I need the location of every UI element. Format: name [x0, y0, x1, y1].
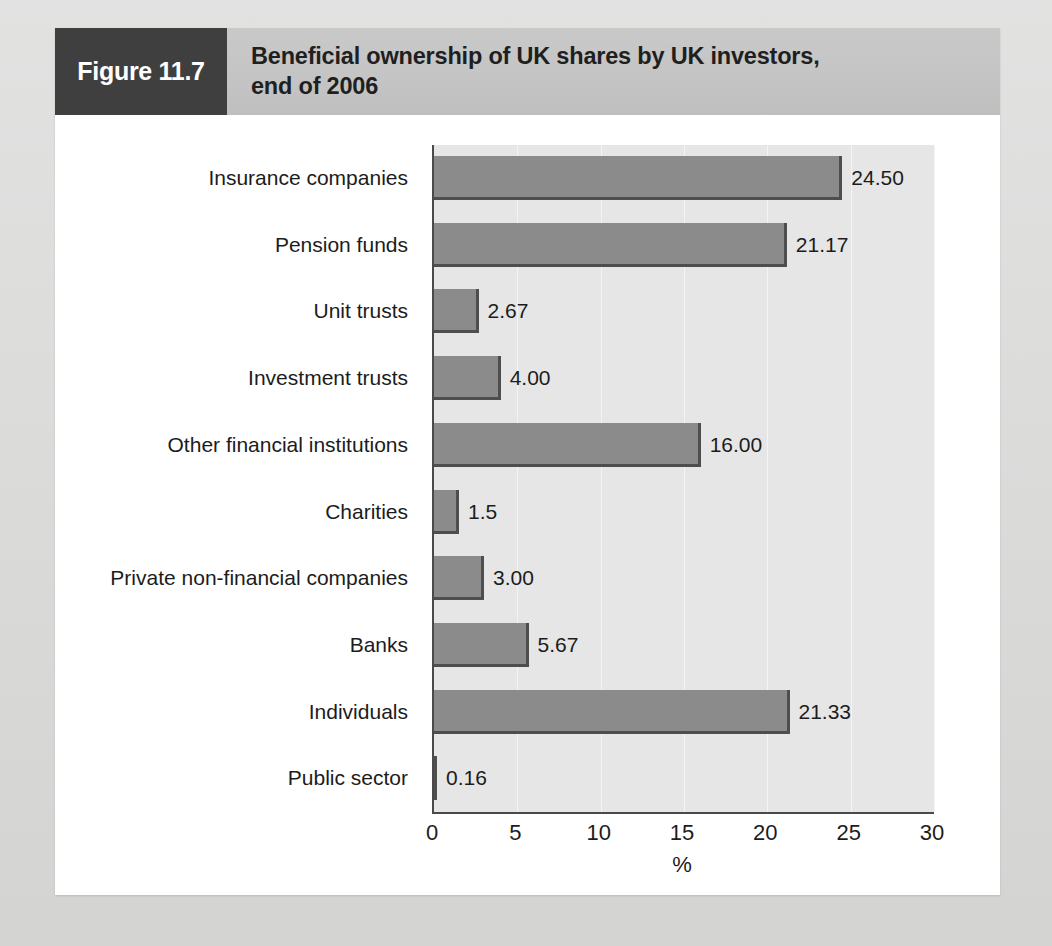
category-label: Investment trusts: [248, 356, 408, 400]
bar-row: 0.16: [434, 745, 934, 812]
chart-area: Insurance companiesPension fundsUnit tru…: [55, 115, 1000, 895]
bar-value-label: 24.50: [851, 156, 904, 200]
x-tick-label: 5: [509, 820, 521, 846]
bar-row: 1.5: [434, 479, 934, 546]
bar-value-label: 3.00: [493, 556, 534, 600]
x-axis-title: %: [672, 852, 692, 878]
x-tick-label: 30: [920, 820, 944, 846]
x-tick-label: 0: [426, 820, 438, 846]
category-label: Banks: [350, 623, 408, 667]
bar-row: 16.00: [434, 412, 934, 479]
category-label: Unit trusts: [313, 289, 408, 333]
category-label: Private non-financial companies: [110, 556, 408, 600]
bar-row: 2.67: [434, 278, 934, 345]
bar-value-label: 2.67: [488, 289, 529, 333]
bar[interactable]: [434, 690, 790, 734]
figure-header: Figure 11.7 Beneficial ownership of UK s…: [55, 28, 1000, 115]
bar-row: 24.50: [434, 145, 934, 212]
category-label: Public sector: [288, 756, 408, 800]
x-tick-label: 20: [753, 820, 777, 846]
x-axis: % 051015202530: [432, 814, 936, 874]
category-label: Individuals: [309, 690, 408, 734]
bar[interactable]: [434, 223, 787, 267]
category-label: Pension funds: [275, 223, 408, 267]
figure-number-badge: Figure 11.7: [55, 28, 227, 115]
bar-value-label: 5.67: [538, 623, 579, 667]
x-tick-label: 10: [586, 820, 610, 846]
page-background: Figure 11.7 Beneficial ownership of UK s…: [0, 0, 1052, 946]
bar-row: 4.00: [434, 345, 934, 412]
category-label: Charities: [325, 490, 408, 534]
bar[interactable]: [434, 756, 437, 800]
category-label: Other financial institutions: [168, 423, 408, 467]
bar-row: 21.33: [434, 679, 934, 746]
bar-row: 21.17: [434, 212, 934, 279]
bar[interactable]: [434, 490, 459, 534]
bars-layer: 24.5021.172.674.0016.001.53.005.6721.330…: [434, 145, 934, 812]
bar-row: 3.00: [434, 545, 934, 612]
bar-row: 5.67: [434, 612, 934, 679]
bar-value-label: 4.00: [510, 356, 551, 400]
bar[interactable]: [434, 356, 501, 400]
bar-value-label: 16.00: [710, 423, 763, 467]
bar-value-label: 21.33: [799, 690, 852, 734]
x-tick-label: 25: [836, 820, 860, 846]
bar[interactable]: [434, 289, 479, 333]
bar-value-label: 21.17: [796, 223, 849, 267]
plot-area: 24.5021.172.674.0016.001.53.005.6721.330…: [432, 145, 934, 814]
bar[interactable]: [434, 423, 701, 467]
gridline: [934, 145, 935, 812]
category-label: Insurance companies: [208, 156, 408, 200]
bar[interactable]: [434, 623, 529, 667]
figure-title: Beneficial ownership of UK shares by UK …: [251, 41, 971, 101]
bar[interactable]: [434, 156, 842, 200]
bar-value-label: 1.5: [468, 490, 497, 534]
figure-card: Figure 11.7 Beneficial ownership of UK s…: [55, 28, 1000, 895]
x-tick-label: 15: [670, 820, 694, 846]
bar-value-label: 0.16: [446, 756, 487, 800]
category-axis-labels: Insurance companiesPension fundsUnit tru…: [55, 145, 420, 812]
bar[interactable]: [434, 556, 484, 600]
